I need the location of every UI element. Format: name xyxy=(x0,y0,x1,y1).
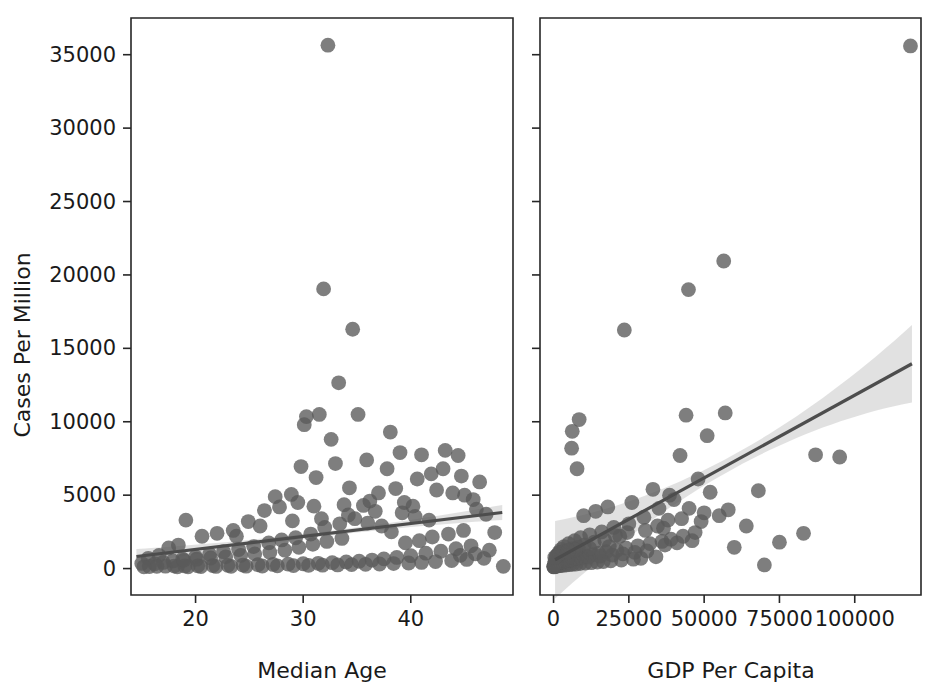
data-point xyxy=(451,448,466,463)
data-point xyxy=(772,535,787,550)
data-point xyxy=(570,461,585,476)
data-point xyxy=(331,375,346,390)
data-point xyxy=(218,549,233,564)
data-point xyxy=(398,535,413,550)
data-point xyxy=(291,540,306,555)
data-point xyxy=(388,481,403,496)
data-point xyxy=(210,526,225,541)
figure-container: 2030400500010000150002000025000300003500… xyxy=(0,0,945,692)
data-point xyxy=(602,539,617,554)
x-tick-label: 100000 xyxy=(815,607,895,631)
data-point xyxy=(739,519,754,534)
data-point xyxy=(345,322,360,337)
data-point xyxy=(808,447,823,462)
data-point xyxy=(233,548,248,563)
data-point xyxy=(674,511,689,526)
scatter-points xyxy=(546,39,917,575)
data-point xyxy=(315,558,330,573)
data-point xyxy=(468,546,483,561)
data-point xyxy=(257,503,272,518)
data-point xyxy=(268,489,283,504)
data-point xyxy=(301,558,316,573)
data-point xyxy=(565,424,580,439)
data-point xyxy=(351,407,366,422)
data-point xyxy=(262,545,277,560)
data-point xyxy=(380,461,395,476)
data-point xyxy=(314,511,329,526)
data-point xyxy=(679,408,694,423)
scatter-points xyxy=(134,38,510,575)
y-tick-label: 30000 xyxy=(49,116,116,140)
data-point xyxy=(307,499,322,514)
data-point xyxy=(673,448,688,463)
data-point xyxy=(341,508,356,523)
data-point xyxy=(253,519,268,534)
data-point xyxy=(718,406,733,421)
data-point xyxy=(178,513,193,528)
data-point xyxy=(410,472,425,487)
data-point xyxy=(319,534,334,549)
y-tick-label: 20000 xyxy=(49,263,116,287)
data-point xyxy=(496,559,511,574)
data-point xyxy=(330,558,345,573)
data-point xyxy=(436,461,451,476)
data-point xyxy=(395,505,410,520)
y-tick-label: 35000 xyxy=(49,43,116,67)
data-point xyxy=(176,553,191,568)
data-point xyxy=(721,502,736,517)
data-point xyxy=(428,554,443,569)
data-point xyxy=(270,558,285,573)
data-point xyxy=(305,537,320,552)
data-point xyxy=(344,557,359,572)
left-x-axis-label: Median Age xyxy=(257,658,387,683)
data-point xyxy=(656,521,671,536)
data-point xyxy=(342,480,357,495)
data-point xyxy=(312,407,327,422)
data-point xyxy=(195,529,210,544)
data-point xyxy=(757,558,772,573)
data-point xyxy=(716,254,731,269)
data-point xyxy=(401,556,416,571)
scatter-figure-svg: 2030400500010000150002000025000300003500… xyxy=(0,0,945,692)
data-point xyxy=(412,533,427,548)
data-point xyxy=(324,432,339,447)
data-point xyxy=(727,540,742,555)
data-point xyxy=(203,551,218,566)
data-point xyxy=(414,555,429,570)
x-tick-label: 30 xyxy=(290,607,317,631)
data-point xyxy=(189,552,204,567)
y-axis-label: Cases Per Million xyxy=(10,252,35,437)
data-point xyxy=(247,546,262,561)
data-point xyxy=(796,526,811,541)
data-point xyxy=(453,548,468,563)
data-point xyxy=(617,323,632,338)
data-point xyxy=(487,525,502,540)
data-point xyxy=(466,492,481,507)
x-tick-label: 25000 xyxy=(595,607,662,631)
data-point xyxy=(383,425,398,440)
data-point xyxy=(229,529,244,544)
x-tick-label: 75000 xyxy=(746,607,813,631)
data-point xyxy=(285,513,300,528)
data-point xyxy=(472,475,487,490)
data-point xyxy=(358,557,373,572)
data-point xyxy=(624,495,639,510)
data-point xyxy=(386,556,401,571)
data-point xyxy=(576,508,591,523)
data-point xyxy=(454,469,469,484)
data-point xyxy=(638,523,653,538)
data-point xyxy=(368,504,383,519)
data-point xyxy=(685,533,700,548)
data-point xyxy=(425,530,440,545)
data-point xyxy=(903,39,918,54)
data-point xyxy=(658,538,673,553)
data-point xyxy=(697,505,712,520)
data-point xyxy=(482,543,497,558)
data-point xyxy=(832,450,847,465)
data-point xyxy=(414,447,429,462)
gdp-per-capita-panel: 0250005000075000100000 xyxy=(532,18,921,631)
median-age-panel: 2030400500010000150002000025000300003500… xyxy=(49,18,513,631)
data-point xyxy=(316,281,331,296)
x-tick-label: 0 xyxy=(547,607,560,631)
data-point xyxy=(564,441,579,456)
